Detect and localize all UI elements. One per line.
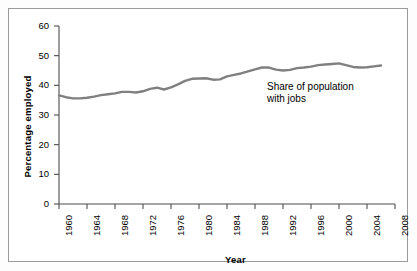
y-tick-label: 60 <box>27 20 49 31</box>
x-tick-label: 1996 <box>315 215 326 236</box>
x-tick-label: 2000 <box>343 215 354 236</box>
axis-lines <box>59 26 395 204</box>
y-axis-title: Percentage employed <box>22 62 33 192</box>
x-tick-label: 1964 <box>91 215 102 236</box>
x-tick-label: 1984 <box>231 215 242 236</box>
x-tick-label: 1972 <box>147 215 158 236</box>
x-tick-label: 1992 <box>287 215 298 236</box>
y-tick-label: 0 <box>27 198 49 209</box>
figure-container: 0102030405060 19601964196819721976198019… <box>0 0 417 271</box>
y-axis-ticks <box>54 26 59 204</box>
x-axis-ticks <box>59 204 395 209</box>
chart-frame: 0102030405060 19601964196819721976198019… <box>8 8 408 262</box>
x-tick-label: 1980 <box>203 215 214 236</box>
y-tick-label: 50 <box>27 50 49 61</box>
x-tick-label: 1968 <box>119 215 130 236</box>
x-axis-title: Year <box>67 254 404 265</box>
x-tick-label: 2004 <box>371 215 382 236</box>
x-tick-label: 2008 <box>399 215 410 236</box>
x-tick-label: 1960 <box>63 215 74 236</box>
x-tick-label: 1976 <box>175 215 186 236</box>
x-tick-label: 1988 <box>259 215 270 236</box>
series-annotation-label: Share of population with jobs <box>267 81 354 104</box>
